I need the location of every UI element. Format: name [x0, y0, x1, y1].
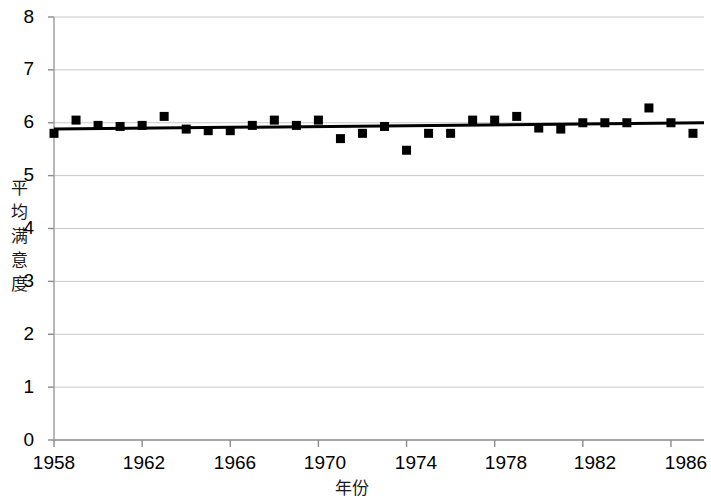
data-point-marker [666, 118, 675, 127]
data-point-marker [248, 121, 257, 130]
gridlines [54, 17, 704, 440]
data-point-marker [490, 116, 499, 125]
data-point-marker [182, 125, 191, 134]
data-point-marker [116, 122, 125, 131]
data-point-marker [446, 129, 455, 138]
data-point-marker [138, 121, 147, 130]
data-point-marker [688, 129, 697, 138]
data-point-marker [160, 112, 169, 121]
data-point-marker [226, 126, 235, 135]
data-point-marker [622, 118, 631, 127]
data-point-marker [72, 116, 81, 125]
data-point-marker [204, 126, 213, 135]
data-point-marker [94, 121, 103, 130]
data-point-marker [512, 112, 521, 121]
data-point-marker [534, 124, 543, 133]
data-point-marker [644, 103, 653, 112]
data-point-marker [292, 121, 301, 130]
data-point-marker [402, 146, 411, 155]
data-point-marker [336, 134, 345, 143]
data-point-marker [424, 129, 433, 138]
y-axis-ticks [48, 17, 54, 440]
data-point-marker [358, 129, 367, 138]
data-point-marker [270, 116, 279, 125]
data-point-marker [50, 129, 59, 138]
data-point-marker [600, 118, 609, 127]
data-point-marker [578, 118, 587, 127]
data-point-marker [468, 116, 477, 125]
x-axis-ticks [54, 440, 671, 447]
data-point-marker [314, 116, 323, 125]
data-point-marker [556, 125, 565, 134]
data-point-marker [380, 122, 389, 131]
